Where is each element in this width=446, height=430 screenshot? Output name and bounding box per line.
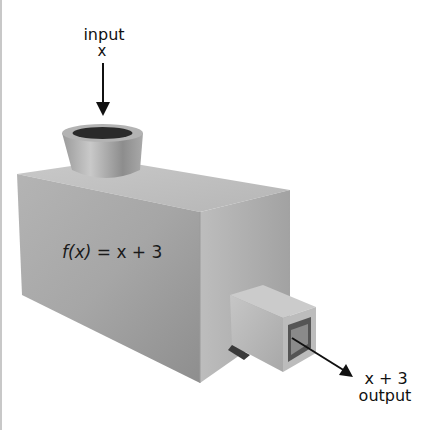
output-arrowhead xyxy=(339,364,353,377)
input-arrowhead xyxy=(96,102,110,116)
function-formula: f(x) = x + 3 xyxy=(62,242,162,262)
function-machine-diagram: input x f(x) = x + 3 x + 3 output xyxy=(0,0,446,430)
output-label: output xyxy=(359,386,412,405)
function-arg: (x) xyxy=(68,242,91,262)
output-tube xyxy=(228,285,316,372)
input-variable: x xyxy=(98,42,107,60)
input-hopper xyxy=(62,124,143,178)
function-rhs: = x + 3 xyxy=(91,242,162,262)
